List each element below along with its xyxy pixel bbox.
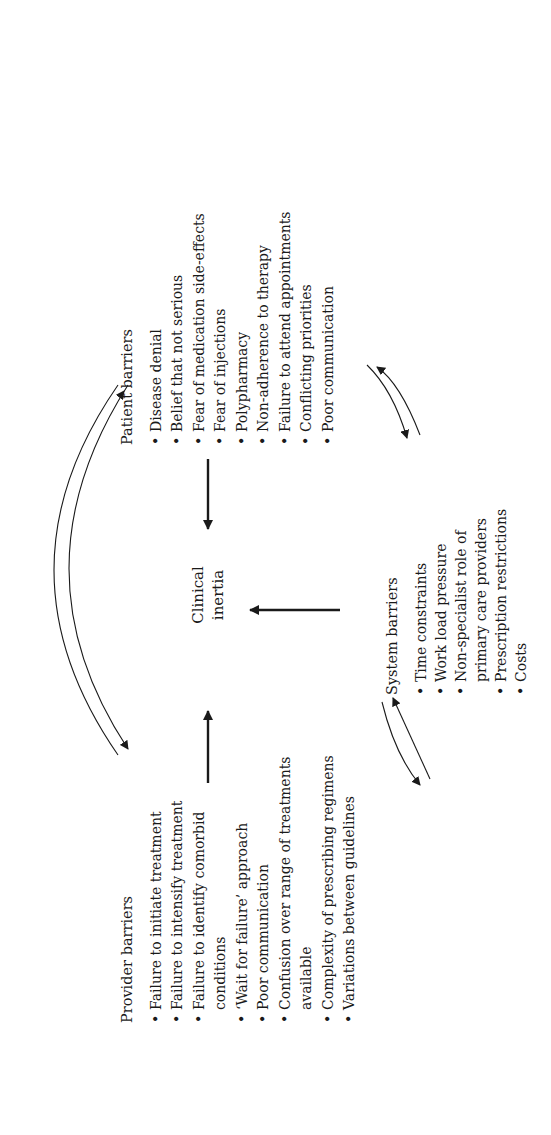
curved-arrow-system-patient [367,365,420,438]
curved-arrow-provider-patient [54,385,128,755]
arrows-layer [0,0,551,1135]
clinical-inertia-diagram: Patient barriers Disease denial Belief t… [0,0,551,1135]
curved-arrow-provider-system [382,698,430,785]
curved-arrow-provider-patient-head-right [60,391,124,753]
